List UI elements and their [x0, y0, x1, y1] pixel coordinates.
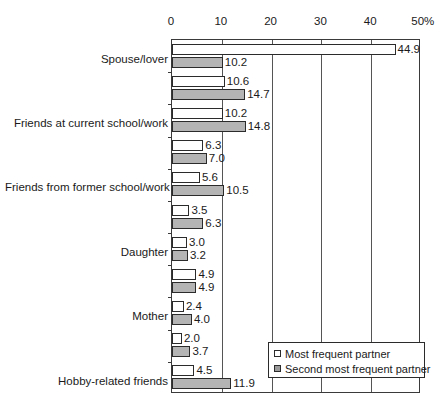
- bar-value-label: 2.0: [182, 333, 200, 344]
- chart-category-group: Friends at current school/work10.614.7: [172, 76, 419, 101]
- y-axis-tick: [168, 201, 172, 202]
- y-axis-category-label: Spouse/lover: [5, 53, 168, 66]
- bar-value-label: 6.3: [203, 140, 221, 151]
- bar-second: [172, 314, 192, 325]
- y-axis-tick: [168, 137, 172, 138]
- y-axis-tick: [168, 169, 172, 170]
- bar-second: [172, 121, 246, 132]
- legend-item-second-most-frequent: Second most frequent partner: [274, 361, 424, 376]
- y-axis-tick: [168, 72, 172, 73]
- chart-category-group: Hobby-related friends3.56.3: [172, 205, 419, 230]
- legend-item-most-frequent: Most frequent partner: [274, 346, 424, 361]
- gray-square-icon: [274, 365, 281, 372]
- chart-category-group: Father3.03.2: [172, 237, 419, 262]
- bar-value-label: 11.9: [231, 378, 255, 389]
- y-axis-category-label: Hobby-related friends: [5, 375, 168, 388]
- bar-second: [172, 89, 245, 100]
- bar-most: [172, 333, 182, 344]
- y-axis-category-label: Friends from former school/work: [5, 181, 168, 194]
- bar-value-label: 10.2: [223, 57, 247, 68]
- bar-value-label: 14.8: [246, 121, 270, 132]
- white-square-icon: [274, 350, 281, 357]
- bar-value-label: 44.9: [396, 44, 420, 55]
- bar-most: [172, 44, 396, 55]
- bar-value-label: 3.5: [189, 205, 207, 216]
- bar-second: [172, 218, 203, 229]
- bar-value-label: 5.6: [200, 172, 218, 183]
- bar-value-label: 14.7: [245, 89, 269, 100]
- legend-label-second-most-frequent: Second most frequent partner: [285, 363, 431, 375]
- bar-most: [172, 365, 194, 376]
- bar-value-label: 4.9: [196, 282, 214, 293]
- y-axis-tick: [168, 330, 172, 331]
- bar-most: [172, 301, 184, 312]
- bar-most: [172, 172, 200, 183]
- legend-label-most-frequent: Most frequent partner: [285, 348, 390, 360]
- bar-most: [172, 205, 189, 216]
- chart-category-group: Daughter6.37.0: [172, 140, 419, 165]
- x-axis-tick-label: 10: [214, 14, 227, 28]
- bar-most: [172, 140, 203, 151]
- bar-value-label: 4.9: [196, 269, 214, 280]
- y-axis-tick: [168, 104, 172, 105]
- y-axis-category-label: Friends at current school/work: [5, 117, 168, 130]
- bar-value-label: 7.0: [207, 153, 225, 164]
- bar-value-label: 6.3: [203, 218, 221, 229]
- bar-value-label: 3.2: [188, 250, 206, 261]
- bar-value-label: 10.6: [225, 76, 249, 87]
- bar-most: [172, 108, 223, 119]
- bar-value-label: 3.7: [190, 346, 208, 357]
- y-axis-tick: [168, 265, 172, 266]
- bar-most: [172, 269, 196, 280]
- chart-category-group: Mother5.610.5: [172, 172, 419, 197]
- x-axis-tick-labels: 01020304050%: [0, 14, 442, 30]
- bar-value-label: 4.0: [192, 314, 210, 325]
- chart-category-group: Spouse/lover44.910.2: [172, 44, 419, 69]
- bar-most: [172, 237, 187, 248]
- bar-second: [172, 185, 224, 196]
- chart-category-group: Friends in the neighborhood2.44.0: [172, 301, 419, 326]
- bar-second: [172, 250, 188, 261]
- y-axis-tick: [168, 297, 172, 298]
- bar-value-label: 2.4: [184, 301, 202, 312]
- y-axis-tick: [168, 233, 172, 234]
- bar-value-label: 3.0: [187, 237, 205, 248]
- plot-area: Spouse/lover44.910.2Friends at current s…: [171, 39, 420, 393]
- bar-value-label: 10.2: [223, 108, 247, 119]
- y-axis-category-label: Mother: [5, 310, 168, 323]
- chart-category-group: Friends from former school/work10.214.8: [172, 108, 419, 133]
- bar-second: [172, 378, 231, 389]
- bar-value-label: 4.5: [194, 365, 212, 376]
- chart-category-group: Son4.94.9: [172, 269, 419, 294]
- bar-second: [172, 153, 207, 164]
- x-axis-tick-label: 0: [168, 14, 174, 28]
- bar-second: [172, 346, 190, 357]
- bar-most: [172, 76, 225, 87]
- bar-second: [172, 282, 196, 293]
- x-axis-tick-label: 50%: [411, 14, 434, 28]
- bar-second: [172, 57, 223, 68]
- y-axis-tick: [168, 362, 172, 363]
- chart-legend: Most frequent partner Second most freque…: [268, 342, 425, 378]
- horizontal-bar-chart: 01020304050% Spouse/lover44.910.2Friends…: [0, 0, 442, 410]
- x-axis-tick-label: 40: [364, 14, 377, 28]
- x-axis-tick-label: 20: [264, 14, 277, 28]
- bar-value-label: 10.5: [224, 185, 248, 196]
- y-axis-category-label: Daughter: [5, 246, 168, 259]
- x-axis-tick-label: 30: [314, 14, 327, 28]
